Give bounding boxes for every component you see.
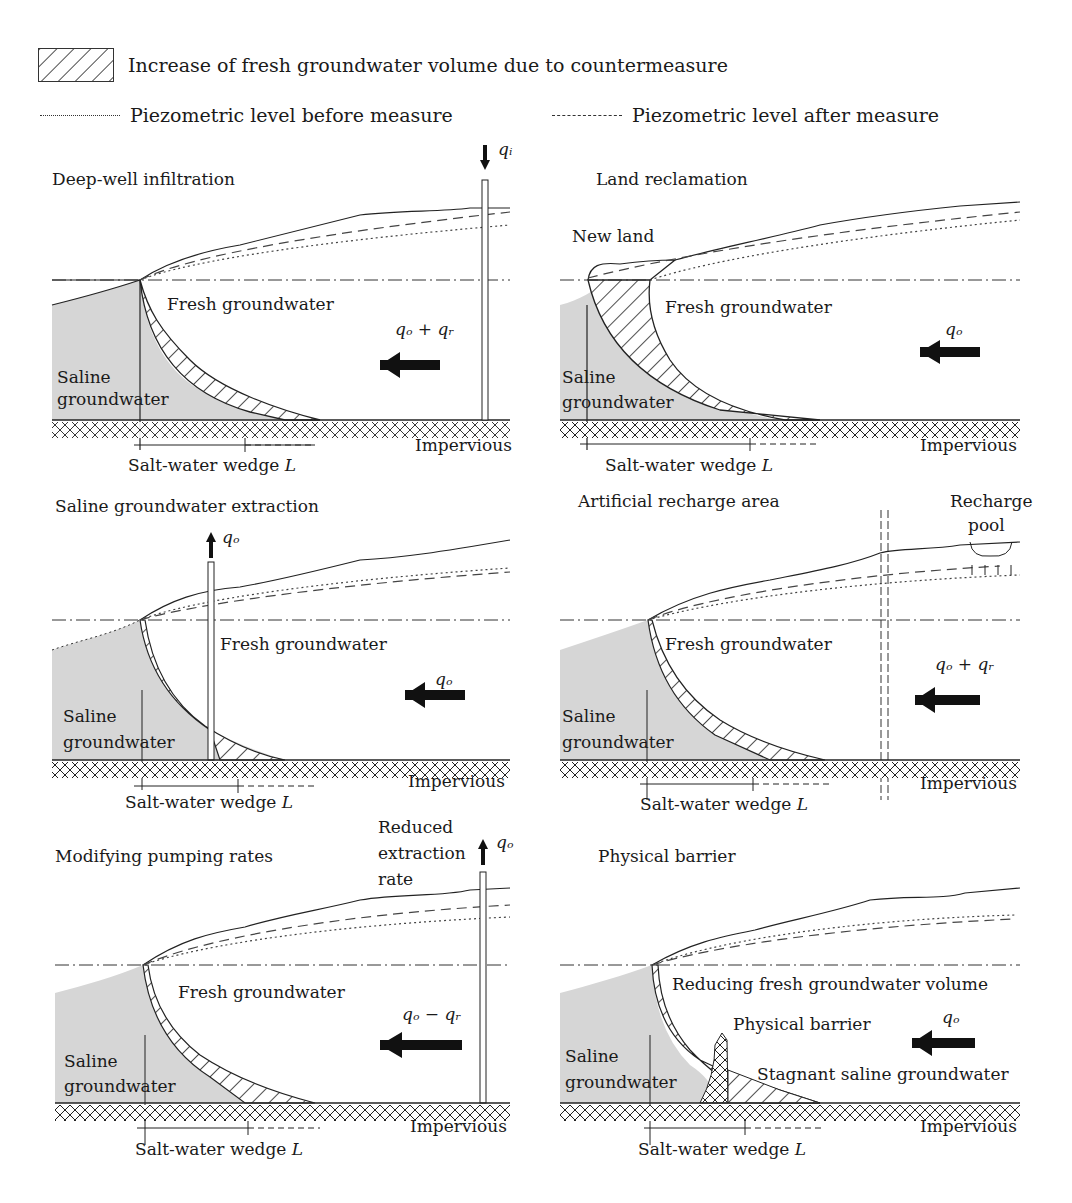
fresh-groundwater-label: Fresh groundwater <box>167 295 334 315</box>
reduced-label: Reduced <box>378 818 453 838</box>
legend-hatch-label: Increase of fresh groundwater volume due… <box>128 54 728 76</box>
impervious-label: Impervious <box>408 772 505 792</box>
panel-pumping-rates: Modifying pumping rates Reduced extracti… <box>30 815 530 1175</box>
rate-label: rate <box>378 870 413 890</box>
stagnant-label: Stagnant saline groundwater <box>757 1065 1009 1085</box>
impervious-label: Impervious <box>920 1117 1017 1137</box>
fresh-groundwater-label: Fresh groundwater <box>665 635 832 655</box>
legend-after-label: Piezometric level after measure <box>632 104 939 126</box>
new-land-label: New land <box>572 227 654 247</box>
pool-label: pool <box>968 516 1005 536</box>
extraction-label: extraction <box>378 844 466 864</box>
groundwater-label: groundwater <box>63 733 175 753</box>
panel-physical-barrier: Physical barrier Reducing fresh groundwa… <box>540 815 1040 1175</box>
flow-label: qₒ <box>435 670 452 690</box>
groundwater-label: groundwater <box>565 1073 677 1093</box>
flow-label: qₒ − qᵣ <box>402 1005 461 1025</box>
panel-title: Saline groundwater extraction <box>55 497 319 517</box>
legend-after: Piezometric level after measure <box>552 104 939 126</box>
legend-before-label: Piezometric level before measure <box>130 104 453 126</box>
panel-artificial-recharge: Artificial recharge area Recharge pool F… <box>540 480 1040 820</box>
wedge-label: Salt-water wedge L <box>128 456 296 476</box>
impervious-label: Impervious <box>415 436 512 456</box>
well-label: qₒ <box>222 528 239 548</box>
groundwater-label: groundwater <box>57 390 169 410</box>
fresh-groundwater-label: Fresh groundwater <box>220 635 387 655</box>
panel-title: Deep-well infiltration <box>52 170 235 190</box>
groundwater-label: groundwater <box>562 733 674 753</box>
wedge-label: Salt-water wedge L <box>135 1140 303 1160</box>
barrier-label: Physical barrier <box>733 1015 871 1035</box>
impervious-label: Impervious <box>410 1117 507 1137</box>
panel-title: Modifying pumping rates <box>55 847 273 867</box>
legend-hatch: Increase of fresh groundwater volume due… <box>38 48 728 82</box>
saline-label: Saline <box>57 368 111 388</box>
saline-label: Saline <box>562 368 616 388</box>
impervious-label: Impervious <box>920 774 1017 794</box>
groundwater-label: groundwater <box>562 393 674 413</box>
panel-saline-extraction: Saline groundwater extraction qₒ Fresh g… <box>30 490 530 830</box>
flow-label: qₒ + qᵣ <box>395 320 454 340</box>
well-label: qᵢ <box>498 140 512 160</box>
wedge-label: Salt-water wedge L <box>638 1140 806 1160</box>
saline-label: Saline <box>562 707 616 727</box>
panel-deep-well: Deep-well infiltration Fresh groundwater… <box>30 140 530 480</box>
flow-label: qₒ <box>945 320 962 340</box>
flow-label: qₒ + qᵣ <box>935 655 994 675</box>
saline-label: Saline <box>64 1052 118 1072</box>
dotted-line-icon <box>40 115 120 116</box>
fresh-groundwater-label: Fresh groundwater <box>178 983 345 1003</box>
wedge-label: Salt-water wedge L <box>605 456 773 476</box>
reducing-label: Reducing fresh groundwater volume <box>672 975 988 995</box>
dashed-line-icon <box>552 115 622 116</box>
panel-title: Artificial recharge area <box>578 492 780 512</box>
saline-label: Saline <box>63 707 117 727</box>
groundwater-label: groundwater <box>64 1077 176 1097</box>
panel-land-reclamation: Land reclamation New land Fresh groundwa… <box>540 140 1040 480</box>
wedge-label: Salt-water wedge L <box>640 795 808 815</box>
panel-title: Physical barrier <box>598 847 736 867</box>
saline-label: Saline <box>565 1047 619 1067</box>
legend-before: Piezometric level before measure <box>40 104 453 126</box>
impervious-label: Impervious <box>920 436 1017 456</box>
panel-title: Land reclamation <box>596 170 748 190</box>
recharge-label: Recharge <box>950 492 1033 512</box>
wedge-label: Salt-water wedge L <box>125 793 293 813</box>
hatch-swatch <box>38 48 114 82</box>
fresh-groundwater-label: Fresh groundwater <box>665 298 832 318</box>
flow-label: qₒ <box>942 1008 959 1028</box>
well-label: qₒ <box>496 833 513 853</box>
